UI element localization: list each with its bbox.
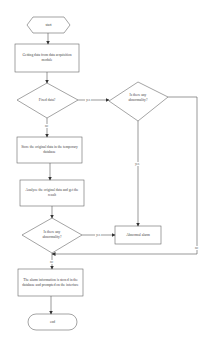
edge-label-check1-no: no	[194, 246, 199, 250]
abnormal-alarm-label: Abnormal alarm	[116, 227, 160, 243]
fixed-data-label: Fixed data?	[28, 94, 66, 106]
abnormality-check-1-label: Is there any abnormality?	[122, 91, 154, 105]
edge-label-fixed-no: no	[44, 124, 49, 128]
analyze-label: Analyze the original data and get the re…	[24, 181, 80, 205]
store-temp-label: Store the original data in the temporary…	[19, 138, 80, 162]
store-alarm-label: The alarm information is stored in the d…	[20, 270, 81, 295]
edge-label-check2-yes: yes	[95, 233, 101, 237]
edge-label-check1-yes: yes	[134, 162, 140, 166]
edge-label-fixed-yes: yes	[85, 98, 91, 102]
abnormality-check-2-label: Is there any abnormality?	[36, 228, 68, 242]
end-label: end	[30, 316, 75, 328]
start-label: start	[33, 19, 64, 31]
get-data-label: Getting data from data acquisition modul…	[19, 45, 75, 71]
edge-label-check2-no: no	[49, 260, 54, 264]
